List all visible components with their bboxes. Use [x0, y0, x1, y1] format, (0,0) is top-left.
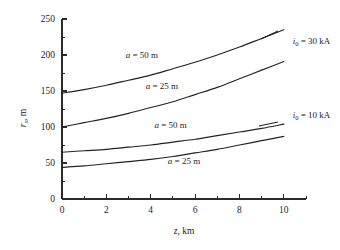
- y-axis-title: rs, m: [18, 108, 29, 127]
- x-axis-ticks: 0246810: [60, 194, 306, 215]
- leader-line-30ka: [261, 31, 278, 39]
- y-tick-label: 50: [46, 158, 56, 168]
- curve-label-a50-bottom: a = 50 m: [155, 120, 187, 130]
- y-tick-label: 200: [41, 50, 56, 60]
- chart-figure: 050100150200250 0246810 a = 50 ma = 25 m…: [0, 0, 340, 250]
- y-tick-label: 100: [41, 122, 56, 132]
- curve-label-a50-top-value: = 50 m: [130, 50, 158, 60]
- y-tick-label: 150: [41, 86, 56, 96]
- annotation-leaders: [259, 31, 278, 126]
- curve-label-a50-top: a = 50 m: [126, 50, 158, 60]
- current-label-10ka-value: = 10 kA: [298, 110, 330, 120]
- current-label-30ka-value: = 30 kA: [298, 36, 330, 46]
- data-curves: [62, 30, 284, 168]
- x-tick-label: 4: [148, 205, 153, 215]
- curve-label-a25-bottom: a = 25 m: [168, 156, 200, 166]
- current-label-10ka: i0 = 10 kA: [293, 110, 331, 121]
- x-axis-title: z, km: [173, 226, 195, 236]
- y-axis-ticks: 050100150200250: [41, 14, 67, 204]
- x-axis-title-units: , km: [177, 226, 195, 236]
- x-tick-label: 6: [193, 205, 198, 215]
- y-tick-label: 0: [50, 194, 55, 204]
- y-tick-label: 250: [41, 14, 56, 24]
- current-label-30ka: i0 = 30 kA: [293, 36, 331, 47]
- axis-group: [62, 19, 306, 199]
- x-tick-label: 0: [60, 205, 65, 215]
- curve-label-a25-top: a = 25 m: [146, 81, 178, 91]
- curve-series-1: [62, 61, 284, 127]
- curve-label-a25-top-value: = 25 m: [150, 81, 178, 91]
- line-chart: 050100150200250 0246810 a = 50 ma = 25 m…: [0, 0, 340, 250]
- x-tick-label: 10: [279, 205, 289, 215]
- curve-label-a50-bottom-value: = 50 m: [159, 120, 187, 130]
- curve-label-a25-bottom-value: = 25 m: [172, 156, 200, 166]
- x-tick-label: 8: [237, 205, 242, 215]
- x-tick-label: 2: [104, 205, 109, 215]
- y-axis-title-units: , m: [18, 108, 28, 121]
